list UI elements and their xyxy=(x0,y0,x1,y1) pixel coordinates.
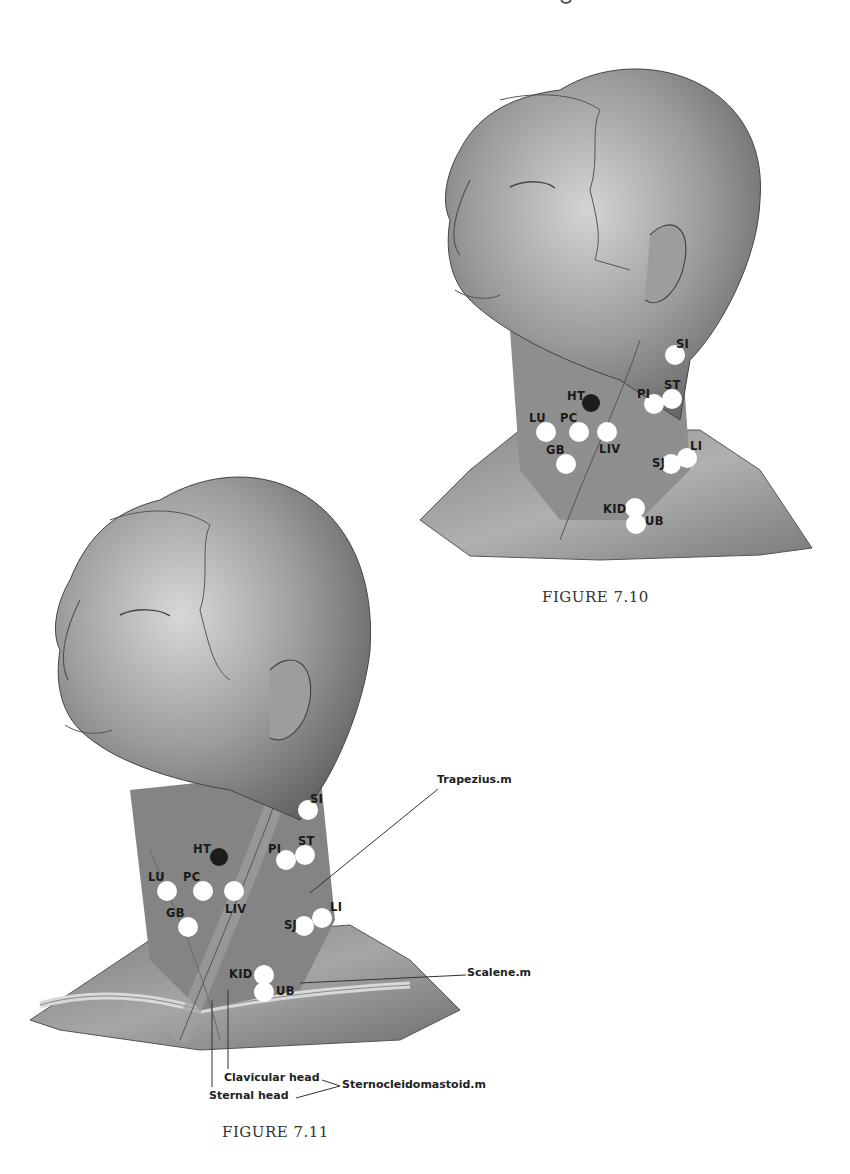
acupoint-kid-label: KID xyxy=(603,502,627,516)
acupoint-si-label: SI xyxy=(676,337,689,351)
clavicular-head-label: Clavicular head xyxy=(224,1071,320,1084)
head-neck-muscle-illustration-bottom xyxy=(0,0,850,1174)
scm-brace-upper xyxy=(322,1080,340,1086)
acupoint-ub-label: UB xyxy=(276,984,295,998)
acupoint-ht-label: HT xyxy=(567,389,585,403)
acupoint-st-label: ST xyxy=(664,378,681,392)
trapezius-leader-line xyxy=(310,789,438,893)
acupoint-liv-marker xyxy=(597,422,617,442)
acupoint-gb-marker xyxy=(178,917,198,937)
sternocleidomastoid-label: Sternocleidomastoid.m xyxy=(342,1078,486,1091)
acupoint-gb-label: GB xyxy=(546,443,565,457)
acupoint-ub-marker xyxy=(626,514,646,534)
trapezius-label: Trapezius.m xyxy=(437,773,512,786)
acupoint-li-label: LI xyxy=(690,439,702,453)
acupoint-pi-label: PI xyxy=(637,387,650,401)
figure-7-10-caption: FIGURE 7.10 xyxy=(542,588,649,606)
acupoint-pc-marker xyxy=(193,881,213,901)
acupoint-st-marker xyxy=(662,389,682,409)
acupoint-liv-label: LIV xyxy=(599,442,620,456)
acupoint-pi-label: PI xyxy=(268,842,281,856)
acupoint-pc-label: PC xyxy=(560,411,577,425)
acupoint-li-marker xyxy=(312,908,332,928)
figure-7-11-caption: FIGURE 7.11 xyxy=(222,1123,329,1141)
acupoint-lu-label: LU xyxy=(529,411,546,425)
scm-brace-lower xyxy=(296,1086,340,1098)
acupoint-st-label: ST xyxy=(298,834,315,848)
acupoint-lu-label: LU xyxy=(148,870,165,884)
acupoint-si-label: SI xyxy=(310,792,323,806)
acupoint-ht-label: HT xyxy=(193,842,211,856)
scalene-label: Scalene.m xyxy=(467,966,531,979)
acupoint-gb-marker xyxy=(556,454,576,474)
acupoint-sj-label: SJ xyxy=(284,918,297,932)
acupoint-pc-marker xyxy=(569,422,589,442)
acupoint-lu-marker xyxy=(157,881,177,901)
acupoint-st-marker xyxy=(295,845,315,865)
acupoint-ub-label: UB xyxy=(645,514,664,528)
acupoint-lu-marker xyxy=(536,422,556,442)
acupoint-liv-marker xyxy=(224,881,244,901)
figure-7-11 xyxy=(0,0,850,1174)
acupoint-kid-label: KID xyxy=(229,967,253,981)
acupoint-liv-label: LIV xyxy=(225,902,246,916)
acupoint-pc-label: PC xyxy=(183,870,200,884)
acupoint-ht-marker xyxy=(210,848,228,866)
acupoint-li-label: LI xyxy=(330,900,342,914)
acupoint-gb-label: GB xyxy=(166,906,185,920)
acupoint-ub-marker xyxy=(254,982,274,1002)
acupoint-sj-label: SJ xyxy=(652,456,665,470)
sternal-head-label: Sternal head xyxy=(209,1089,289,1102)
